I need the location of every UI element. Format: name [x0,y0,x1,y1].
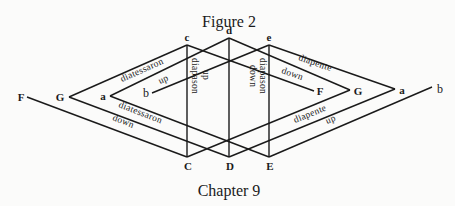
chapter-caption: Chapter 9 [198,182,261,200]
line-E-b [269,87,432,157]
node-right-F: F [317,85,324,97]
label-up-left: up [157,73,170,86]
node-D: D [226,160,234,172]
node-left-b: b [143,86,149,100]
node-E: E [266,160,273,172]
node-right-G: G [354,85,363,97]
node-d: d [226,24,232,36]
label-down-left: down [111,113,135,130]
line-a-d [110,38,229,96]
label-diapason-down: diapason [258,58,268,94]
node-left-F: F [18,91,25,103]
node-c: c [185,31,190,43]
node-right-b: b [437,82,443,96]
node-left-a: a [100,90,106,102]
label-diapason-up: diapason [190,58,200,94]
node-left-G: G [56,91,65,103]
line-D-a [229,89,395,157]
interval-diagram: Figure 2 c d e C D E F G a b F G a b dia… [0,0,455,206]
node-C: C [184,160,192,172]
line-G-D [69,97,229,157]
label-up-vertical: up [201,70,211,80]
node-right-a: a [399,84,405,96]
label-up-right: up [324,113,337,126]
label-down-vertical: down [248,65,258,87]
node-e: e [267,31,272,43]
line-F-C [27,97,187,157]
